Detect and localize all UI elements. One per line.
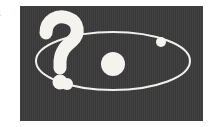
- figure-svg: [20, 6, 203, 121]
- margin-text-line-1: n: [0, 5, 9, 18]
- page-canvas: n t: [0, 0, 209, 127]
- central-star-icon: [101, 52, 125, 76]
- margin-text-line-2: t: [0, 32, 9, 45]
- orbiting-body-upper-right-icon: [156, 37, 166, 47]
- orbit-question-illustration: [20, 6, 203, 121]
